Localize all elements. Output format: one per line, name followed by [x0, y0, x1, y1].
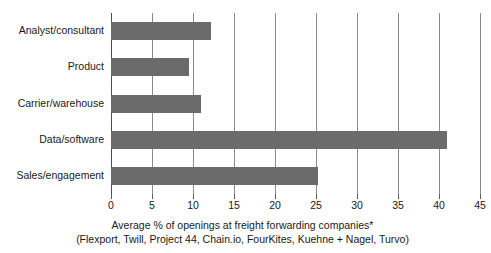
category-label: Analyst/consultant: [0, 25, 104, 36]
tick-label: 5: [137, 199, 167, 211]
tick-label: 40: [424, 199, 454, 211]
gridline-30: [357, 13, 358, 194]
category-axis: Analyst/consultantProductCarrier/warehou…: [0, 13, 104, 194]
bar: [111, 22, 211, 40]
caption-line-1: Average % of openings at freight forward…: [0, 218, 485, 232]
gridline-40: [439, 13, 440, 194]
category-label: Sales/engagement: [0, 170, 104, 181]
tick-label: 15: [219, 199, 249, 211]
category-label: Carrier/warehouse: [0, 98, 104, 109]
tick-label: 35: [383, 199, 413, 211]
category-label: Product: [0, 61, 104, 72]
chart-caption: Average % of openings at freight forward…: [0, 218, 485, 246]
tick-label: 45: [465, 199, 491, 211]
tick-label: 25: [301, 199, 331, 211]
plot-area: [111, 13, 480, 194]
bar: [111, 167, 318, 185]
tick-label: 0: [96, 199, 126, 211]
gridline-35: [398, 13, 399, 194]
bar: [111, 58, 189, 76]
gridline-45: [480, 13, 481, 194]
tick-label: 30: [342, 199, 372, 211]
bar: [111, 131, 447, 149]
caption-line-2: (Flexport, Twill, Project 44, Chain.io, …: [0, 232, 485, 246]
tick-label: 20: [260, 199, 290, 211]
bar: [111, 95, 201, 113]
category-label: Data/software: [0, 134, 104, 145]
tick-label: 10: [178, 199, 208, 211]
